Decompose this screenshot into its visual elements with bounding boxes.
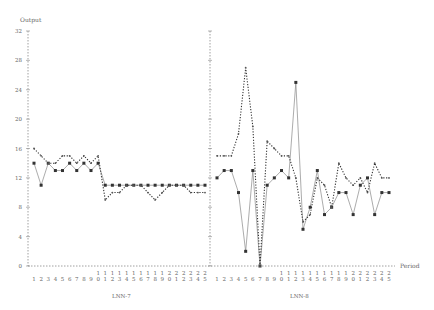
- x-tick-label: 9: [344, 276, 348, 282]
- data-point: [33, 162, 36, 165]
- data-point: [104, 184, 107, 187]
- svg-text:1: 1: [111, 270, 115, 276]
- data-point: [75, 169, 78, 172]
- data-point: [294, 81, 297, 84]
- data-point: [223, 155, 225, 157]
- data-point: [154, 184, 157, 187]
- data-point: [133, 184, 135, 186]
- data-point: [168, 184, 170, 186]
- x-tick-label: 5: [387, 276, 391, 282]
- svg-text:2: 2: [196, 270, 200, 276]
- x-tick-label: 8: [265, 276, 269, 282]
- data-point: [40, 155, 42, 157]
- data-point: [266, 140, 268, 142]
- x-tick-label: 3: [47, 276, 51, 282]
- x-tick-label: 2: [294, 276, 298, 282]
- data-point: [280, 169, 283, 172]
- data-point: [147, 184, 150, 187]
- svg-text:1: 1: [287, 270, 291, 276]
- y-tick-label: 20: [15, 116, 22, 122]
- x-tick-label: 3: [230, 276, 234, 282]
- x-tick-label: 4: [125, 276, 129, 282]
- data-point: [111, 192, 113, 194]
- data-point: [161, 192, 163, 194]
- data-point: [176, 184, 178, 186]
- data-point: [216, 155, 218, 157]
- data-point: [287, 176, 290, 179]
- data-point: [118, 184, 121, 187]
- data-point: [62, 155, 64, 157]
- y-tick-label: 0: [19, 263, 23, 269]
- svg-text:1: 1: [316, 270, 320, 276]
- svg-text:2: 2: [380, 270, 384, 276]
- y-axis-title: Output: [20, 16, 42, 24]
- svg-text:2: 2: [189, 270, 193, 276]
- x-tick-label: 0: [351, 276, 355, 282]
- data-point: [245, 67, 247, 69]
- data-point: [259, 265, 261, 267]
- series-line-dotted: [217, 68, 389, 266]
- data-point: [54, 162, 56, 164]
- data-point: [230, 155, 232, 157]
- svg-text:2: 2: [366, 270, 370, 276]
- svg-text:1: 1: [294, 270, 298, 276]
- data-point: [388, 191, 391, 194]
- svg-text:2: 2: [351, 270, 355, 276]
- data-point: [216, 176, 219, 179]
- svg-text:1: 1: [125, 270, 129, 276]
- svg-text:1: 1: [301, 270, 305, 276]
- data-point: [223, 169, 226, 172]
- x-tick-label: 5: [244, 276, 248, 282]
- x-tick-label: 8: [153, 276, 157, 282]
- data-point: [69, 155, 71, 157]
- data-point: [244, 250, 247, 253]
- data-point: [82, 162, 85, 165]
- data-point: [316, 169, 319, 172]
- data-point: [161, 184, 164, 187]
- data-point: [237, 191, 240, 194]
- series-line-solid: [34, 163, 205, 185]
- data-point: [68, 162, 71, 165]
- data-point: [40, 184, 43, 187]
- x-axis-title: Period: [400, 262, 420, 269]
- x-tick-label: 1: [359, 276, 363, 282]
- x-tick-label: 5: [61, 276, 65, 282]
- x-tick-label: 7: [75, 276, 79, 282]
- svg-text:1: 1: [323, 270, 327, 276]
- svg-text:1: 1: [132, 270, 136, 276]
- x-tick-label: 5: [316, 276, 320, 282]
- x-tick-label: 4: [237, 276, 241, 282]
- svg-text:1: 1: [118, 270, 122, 276]
- data-point: [388, 177, 390, 179]
- data-point: [316, 177, 318, 179]
- data-point: [147, 192, 149, 194]
- data-point: [154, 199, 156, 201]
- x-tick-label: 9: [273, 276, 277, 282]
- data-point: [323, 213, 326, 216]
- data-point: [97, 155, 99, 157]
- data-point: [359, 184, 362, 187]
- data-point: [273, 176, 276, 179]
- svg-text:1: 1: [153, 270, 157, 276]
- x-tick-label: 2: [222, 276, 226, 282]
- x-tick-label: 4: [196, 276, 200, 282]
- x-tick-label: 1: [287, 276, 291, 282]
- y-tick-label: 12: [15, 175, 22, 181]
- y-tick-label: 4: [19, 234, 23, 240]
- data-point: [140, 184, 142, 186]
- x-tick-label: 2: [111, 276, 115, 282]
- data-point: [359, 177, 361, 179]
- data-point: [76, 162, 78, 164]
- x-tick-label: 7: [330, 276, 334, 282]
- svg-text:1: 1: [146, 270, 150, 276]
- x-tick-label: 1: [175, 276, 179, 282]
- svg-text:1: 1: [330, 270, 334, 276]
- data-point: [33, 148, 35, 150]
- data-point: [189, 184, 192, 187]
- data-point: [47, 162, 49, 164]
- x-tick-label: 6: [68, 276, 72, 282]
- svg-text:2: 2: [359, 270, 363, 276]
- data-point: [331, 206, 333, 208]
- svg-text:1: 1: [280, 270, 284, 276]
- x-tick-label: 6: [139, 276, 143, 282]
